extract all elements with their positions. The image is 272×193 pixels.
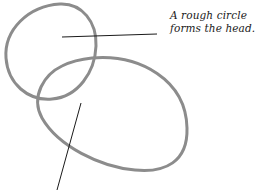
body-pointer-line	[57, 103, 81, 190]
head-caption-line-1: A rough circle	[170, 9, 272, 22]
head-caption: A rough circle forms the head.	[170, 9, 272, 35]
head-caption-line-2: forms the head.	[170, 22, 272, 35]
head-pointer-line	[62, 34, 157, 37]
head-circle	[6, 4, 96, 99]
body-ellipse	[38, 58, 187, 171]
